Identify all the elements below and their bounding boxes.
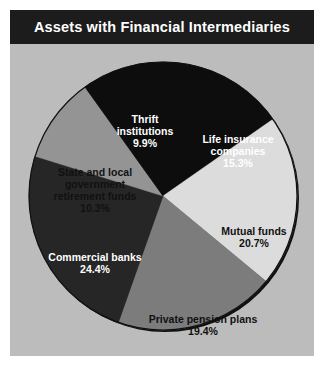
figure-container: Assets with Financial Intermediaries Lif… — [0, 0, 324, 366]
chart-title-bar: Assets with Financial Intermediaries — [10, 10, 314, 44]
page-title: Assets with Financial Intermediaries — [34, 19, 290, 35]
pie-chart — [10, 44, 314, 356]
pie-slice-group — [29, 62, 299, 332]
pie-chart-panel: Life insurance companies 15.3% Mutual fu… — [10, 44, 314, 356]
